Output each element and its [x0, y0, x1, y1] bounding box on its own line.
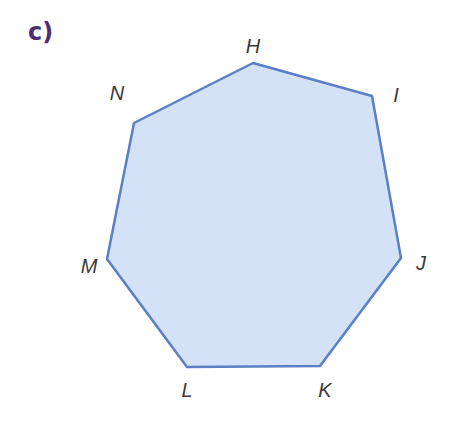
heptagon-diagram: HIJKLMN [0, 0, 450, 423]
vertex-label-k: K [318, 379, 333, 401]
vertex-label-i: I [393, 84, 399, 106]
vertex-label-n: N [110, 82, 125, 104]
vertex-label-h: H [246, 35, 261, 57]
heptagon-shape [107, 63, 401, 367]
vertex-label-l: L [181, 379, 192, 401]
vertex-label-m: M [81, 255, 98, 277]
vertex-label-j: J [415, 252, 427, 274]
